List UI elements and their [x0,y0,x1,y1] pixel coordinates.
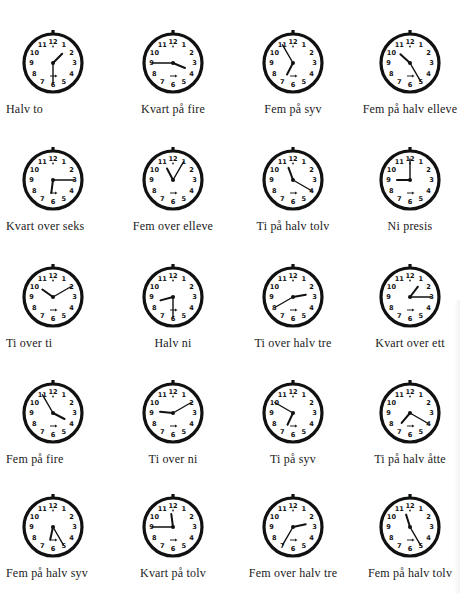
dial-number: 12 [168,155,178,163]
dial-number: 7 [160,78,165,86]
dial-number: 12 [48,388,58,396]
clock-hub [171,178,175,182]
dial-number: 4 [189,70,194,78]
dial-number: 6 [291,315,296,323]
dial-number: 9 [386,293,391,301]
dial-number: 5 [301,428,306,436]
dial-number: 8 [32,70,37,78]
dial-number: 2 [69,49,74,57]
clock-item-11: 121234567891011 Ti over halv tre [238,264,348,374]
dial-number: 6 [408,431,413,439]
dial-number: 5 [418,428,423,436]
time-label: Kvart på fire [118,102,228,117]
dial-number: 11 [158,391,168,399]
dial-marker-top [292,280,294,282]
dial-marker-top [172,280,174,282]
analog-clock-icon: 121234567891011 [140,264,206,330]
dial-number: 5 [61,428,66,436]
clock-item-10: 121234567891011 Halv ni [118,264,228,374]
dial-number: 4 [189,534,194,542]
analog-clock-icon: 121234567891011 [377,380,443,446]
dial-number: 5 [181,542,186,550]
analog-clock-icon: 121234567891011 [260,30,326,96]
dial-number: 9 [269,409,274,417]
dial-marker-top [172,163,174,165]
dial-number: 12 [168,38,178,46]
dial-number: 2 [309,166,314,174]
dial-number: 12 [168,272,178,280]
dial-number: 5 [418,195,423,203]
dial-number: 5 [181,78,186,86]
dial-number: 1 [181,275,186,283]
dial-number: 10 [387,283,397,291]
dial-number: 8 [272,534,277,542]
dial-number: 3 [312,59,317,67]
dial-number: 6 [171,81,176,89]
time-label: Ti over ti [6,336,52,351]
dial-number: 1 [181,391,186,399]
time-label: Fem på halv tolv [355,566,460,581]
dial-number: 11 [278,158,288,166]
time-label: Ti på syv [238,452,348,467]
dial-number: 1 [301,505,306,513]
analog-clock-icon: 121234567891011 [377,30,443,96]
clock-hub [291,61,295,65]
dial-number: 10 [387,399,397,407]
dial-number: 3 [72,59,77,67]
dial-number: 11 [158,41,168,49]
dial-number: 7 [40,78,45,86]
dial-number: 4 [309,534,314,542]
dial-number: 9 [269,293,274,301]
dial-number: 3 [192,59,197,67]
time-label: Fem på syv [238,102,348,117]
clock-item-4: 121234567891011 Fem på halv elleve [355,30,460,140]
dial-marker-top [172,46,174,48]
dial-number: 6 [171,545,176,553]
dial-number: 1 [418,41,423,49]
dial-number: 5 [61,78,66,86]
dial-number: 12 [48,155,58,163]
dial-number: 9 [386,59,391,67]
dial-number: 8 [272,420,277,428]
dial-number: 10 [387,513,397,521]
dial-number: 8 [32,420,37,428]
dial-number: 7 [160,428,165,436]
dial-marker-top [292,510,294,512]
dial-number: 4 [69,70,74,78]
dial-number: 7 [40,195,45,203]
dial-number: 11 [38,158,48,166]
time-label: Ti på halv tolv [238,219,348,234]
analog-clock-icon: 121234567891011 [260,264,326,330]
dial-number: 2 [309,283,314,291]
clock-item-20: 121234567891011 Fem på halv tolv [355,494,460,593]
dial-number: 9 [29,409,34,417]
dial-number: 2 [309,399,314,407]
dial-number: 10 [30,399,40,407]
dial-number: 9 [149,176,154,184]
dial-number: 1 [418,391,423,399]
dial-number: 6 [291,198,296,206]
dial-number: 9 [29,59,34,67]
time-label: Fem på fire [6,452,64,467]
dial-number: 8 [389,70,394,78]
dial-number: 6 [408,315,413,323]
dial-number: 9 [386,523,391,531]
dial-number: 3 [429,523,434,531]
dial-number: 7 [397,195,402,203]
analog-clock-icon: 121234567891011 [20,30,86,96]
page-edge-shadow [454,300,460,593]
dial-number: 7 [40,428,45,436]
dial-number: 8 [272,187,277,195]
dial-number: 2 [189,166,194,174]
dial-number: 2 [69,513,74,521]
dial-number: 7 [280,78,285,86]
dial-number: 6 [291,431,296,439]
clock-item-18: 121234567891011 Kvart på tolv [118,494,228,593]
dial-number: 9 [29,523,34,531]
clock-item-9: 121234567891011 Ti over ti [0,264,108,374]
dial-number: 3 [312,409,317,417]
analog-clock-icon: 121234567891011 [20,147,86,213]
dial-marker-top [172,510,174,512]
dial-number: 4 [426,70,431,78]
clock-hub [51,61,55,65]
